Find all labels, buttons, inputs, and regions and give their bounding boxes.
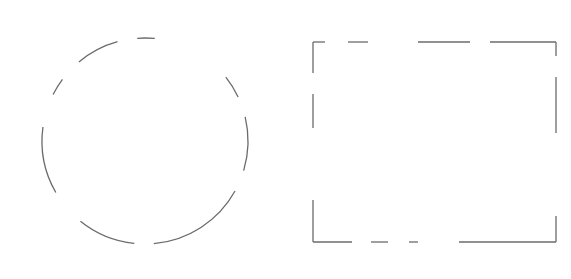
dashed-circle-segment xyxy=(154,191,235,244)
dashed-circle-segment xyxy=(53,79,62,94)
dashed-rectangle xyxy=(313,42,556,242)
dashed-circle xyxy=(42,38,248,244)
dashed-circle-segment xyxy=(42,127,56,193)
diagram-drawing xyxy=(0,0,571,279)
dashed-circle-segment xyxy=(80,221,134,243)
diagram-canvas xyxy=(0,0,571,279)
dashed-circle-segment xyxy=(244,117,248,171)
dashed-circle-segment xyxy=(79,42,118,62)
dashed-circle-segment xyxy=(226,77,238,97)
